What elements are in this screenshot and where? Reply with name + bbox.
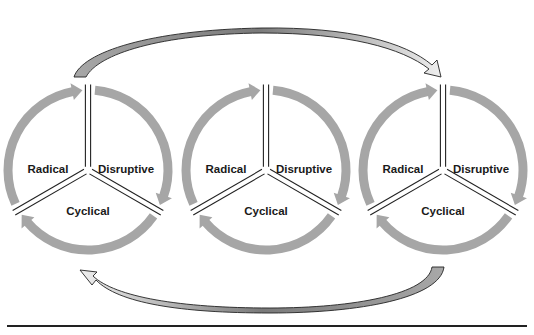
curved-arrow-icon bbox=[74, 28, 441, 77]
segment-label-disruptive: Disruptive bbox=[453, 163, 509, 175]
cycle-segment-upper-left: Radical bbox=[186, 83, 260, 204]
segment-label-radical: Radical bbox=[28, 163, 69, 175]
segment-label-cyclical: Cyclical bbox=[66, 205, 109, 217]
ring-arc bbox=[205, 216, 331, 250]
curved-arrow-icon bbox=[80, 267, 444, 313]
segment-label-cyclical: Cyclical bbox=[244, 205, 287, 217]
cycle-1: RadicalDisruptiveCyclical bbox=[8, 83, 172, 250]
segment-label-radical: Radical bbox=[383, 163, 424, 175]
ring-arc bbox=[450, 90, 523, 197]
cycle-segment-upper-left: Radical bbox=[8, 83, 82, 204]
bottom-curved-arrow bbox=[80, 267, 444, 313]
cycle-2: RadicalDisruptiveCyclical bbox=[186, 83, 350, 250]
cycle-3: RadicalDisruptiveCyclical bbox=[363, 83, 527, 250]
clockwise-arrow-icon bbox=[70, 83, 82, 100]
top-curved-arrow bbox=[74, 28, 441, 77]
cycle-segment-bottom: Cyclical bbox=[22, 205, 154, 250]
ring-arc bbox=[382, 216, 508, 250]
cycle-segment-upper-right: Disruptive bbox=[273, 90, 350, 205]
cycles-layer: RadicalDisruptiveCyclicalRadicalDisrupti… bbox=[8, 83, 527, 250]
cycle-segment-bottom: Cyclical bbox=[377, 205, 509, 250]
cycle-segment-upper-left: Radical bbox=[363, 83, 437, 204]
clockwise-arrow-icon bbox=[425, 83, 437, 100]
innovation-cycles-diagram: RadicalDisruptiveCyclicalRadicalDisrupti… bbox=[0, 0, 534, 335]
cycle-segment-bottom: Cyclical bbox=[200, 205, 332, 250]
segment-label-disruptive: Disruptive bbox=[98, 163, 154, 175]
segment-label-radical: Radical bbox=[206, 163, 247, 175]
ring-arc bbox=[27, 216, 153, 250]
clockwise-arrow-icon bbox=[248, 83, 260, 100]
ring-arc bbox=[273, 90, 346, 197]
ring-arc bbox=[95, 90, 168, 197]
segment-label-disruptive: Disruptive bbox=[276, 163, 332, 175]
cycle-segment-upper-right: Disruptive bbox=[450, 90, 527, 205]
segment-label-cyclical: Cyclical bbox=[421, 205, 464, 217]
cycle-segment-upper-right: Disruptive bbox=[95, 90, 172, 205]
